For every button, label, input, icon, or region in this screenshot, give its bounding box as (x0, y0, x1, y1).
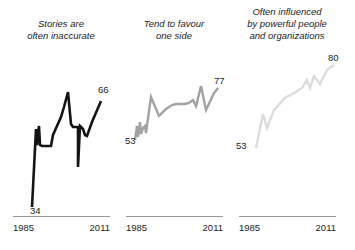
end-value-label: 80 (328, 52, 339, 63)
end-value-label: 77 (214, 75, 225, 86)
series-path (256, 65, 334, 148)
start-value-label: 34 (30, 205, 41, 216)
three-panel-line-chart: Stories are often inaccurate 34 66 1985 … (0, 0, 355, 250)
x-axis-ticks: 1985 2011 (13, 222, 110, 233)
x-axis-ticks: 1985 2011 (239, 222, 336, 233)
x-axis-ticks: 1985 2011 (126, 222, 223, 233)
end-value-label: 66 (98, 84, 109, 95)
start-value-label: 53 (236, 140, 247, 151)
line-series-favour-one-side (119, 0, 229, 250)
panel-plot-area (119, 0, 229, 250)
x-tick-end: 2011 (203, 222, 223, 233)
panel-plot-area (6, 0, 116, 250)
series-path (32, 92, 101, 207)
panel-plot-area (232, 0, 342, 250)
start-value-label: 53 (125, 135, 136, 146)
x-axis-rule (13, 216, 110, 217)
chart-panel-influenced-by-powerful: Often influenced by powerful people and … (232, 0, 342, 250)
x-axis-rule (126, 216, 223, 217)
line-series-stories-inaccurate (6, 0, 116, 250)
line-series-influenced-by-powerful (232, 0, 342, 250)
chart-panel-favour-one-side: Tend to favour one side 53 77 1985 2011 (119, 0, 229, 250)
chart-panel-stories-inaccurate: Stories are often inaccurate 34 66 1985 … (6, 0, 116, 250)
series-path (135, 86, 218, 140)
x-tick-start: 1985 (126, 222, 147, 233)
x-axis-rule (239, 216, 336, 217)
x-tick-end: 2011 (90, 222, 110, 233)
x-tick-start: 1985 (239, 222, 260, 233)
x-tick-start: 1985 (13, 222, 34, 233)
x-tick-end: 2011 (316, 222, 336, 233)
